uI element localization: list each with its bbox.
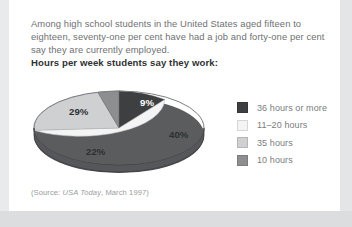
source-publication: USA Today	[63, 188, 102, 197]
pie-label-29: 29%	[69, 106, 89, 117]
page-canvas: Among high school students in the United…	[0, 0, 352, 227]
legend-swatch-icon	[237, 137, 248, 148]
chart-heading: Hours per week students say they work:	[31, 57, 218, 68]
legend-item: 11–20 hours	[237, 117, 347, 135]
pie-chart: 9% 40% 22% 29%	[31, 80, 207, 180]
legend-swatch-icon	[237, 155, 248, 166]
legend-swatch-icon	[237, 120, 248, 131]
pie-label-9: 9%	[140, 97, 154, 108]
pie-svg: 9% 40% 22% 29%	[31, 80, 207, 180]
legend-item: 35 hours	[237, 134, 347, 152]
legend-item-label: 11–20 hours	[257, 120, 307, 130]
left-gutter	[0, 0, 9, 211]
intro-paragraph: Among high school students in the United…	[31, 18, 331, 56]
source-prefix: (Source:	[31, 188, 63, 197]
legend-item: 10 hours	[237, 152, 347, 170]
legend-item-label: 10 hours	[257, 155, 293, 165]
pie-label-40: 40%	[169, 129, 189, 140]
legend-swatch-icon	[237, 102, 248, 113]
chart-legend: 36 hours or more 11–20 hours 35 hours 10…	[237, 99, 347, 169]
source-citation: (Source: USA Today, March 1997)	[31, 188, 149, 197]
content-sheet: Among high school students in the United…	[9, 0, 340, 211]
legend-item-label: 35 hours	[257, 138, 293, 148]
legend-item-label: 36 hours or more	[257, 103, 327, 113]
bottom-gutter	[0, 211, 352, 227]
source-suffix: , March 1997)	[101, 188, 149, 197]
legend-item: 36 hours or more	[237, 99, 347, 117]
pie-label-22: 22%	[86, 146, 106, 157]
pie-graphic: 9% 40% 22% 29%	[31, 80, 207, 180]
